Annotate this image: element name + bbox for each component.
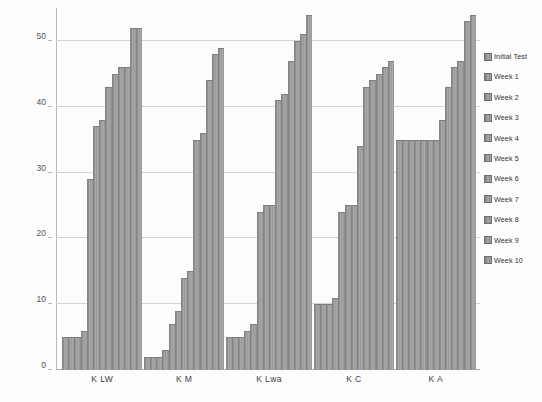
legend-label: Week 7 [494, 195, 519, 204]
legend-label: Week 5 [494, 154, 519, 163]
legend-swatch-icon [484, 216, 492, 224]
plot-area [56, 8, 480, 370]
y-tick-label-30: 30 [37, 163, 46, 173]
legend-item-week-4[interactable]: Week 4 [484, 134, 542, 143]
legend-swatch-icon [484, 73, 492, 81]
legend-item-week-9[interactable]: Week 9 [484, 236, 542, 245]
legend-item-week-8[interactable]: Week 8 [484, 215, 542, 224]
x-category-label-k-lwa: K Lwa [226, 374, 313, 392]
y-tick-mark-0 [48, 369, 52, 370]
legend-item-week-3[interactable]: Week 3 [484, 113, 542, 122]
x-category-label-k-m: K M [144, 374, 224, 392]
bar-k-lw-extra-2 [136, 28, 142, 370]
x-category-label-k-a: K A [396, 374, 476, 392]
legend-swatch-icon [484, 93, 492, 101]
legend-swatch-icon [484, 236, 492, 244]
legend-item-week-6[interactable]: Week 6 [484, 174, 542, 183]
legend-label: Week 9 [494, 236, 519, 245]
y-tick-label-10: 10 [37, 294, 46, 304]
legend-swatch-icon [484, 175, 492, 183]
legend-swatch-icon [484, 195, 492, 203]
y-tick-label-40: 40 [37, 97, 46, 107]
y-tick-mark-20 [48, 237, 52, 238]
y-tick-label-20: 20 [37, 228, 46, 238]
x-axis-category-labels: K LWK MK LwaK CK A [56, 374, 480, 392]
y-tick-mark-10 [48, 303, 52, 304]
bar-group-k-a [396, 8, 476, 370]
legend-item-week-1[interactable]: Week 1 [484, 72, 542, 81]
legend-label: Week 4 [494, 134, 519, 143]
legend-item-week-10[interactable]: Week 10 [484, 256, 542, 265]
bar-group-k-lw [62, 8, 142, 370]
bar-chart: 01020304050 K LWK MK LwaK CK A Initial T… [0, 0, 542, 402]
bar-k-lwa-extra-3 [306, 15, 312, 370]
bar-k-c-extra-2 [388, 61, 394, 370]
x-category-label-k-lw: K LW [62, 374, 142, 392]
legend-item-initial-test[interactable]: Initial Test [484, 52, 542, 61]
bar-group-k-m [144, 8, 224, 370]
legend-swatch-icon [484, 256, 492, 264]
x-category-label-k-c: K C [314, 374, 394, 392]
legend-label: Week 8 [494, 215, 519, 224]
legend-swatch-icon [484, 154, 492, 162]
y-axis: 01020304050 [0, 8, 52, 370]
legend-label: Week 1 [494, 72, 519, 81]
bar-k-a-extra-2 [470, 15, 476, 370]
y-tick-label-50: 50 [37, 31, 46, 41]
legend-label: Initial Test [494, 52, 527, 61]
y-tick-mark-50 [48, 40, 52, 41]
legend-label: Week 2 [494, 93, 519, 102]
legend-swatch-icon [484, 114, 492, 122]
y-tick-mark-30 [48, 172, 52, 173]
y-tick-label-0: 0 [41, 360, 46, 370]
chart-legend: Initial TestWeek 1Week 2Week 3Week 4Week… [484, 52, 542, 265]
bar-group-k-lwa [226, 8, 313, 370]
y-tick-mark-40 [48, 106, 52, 107]
legend-label: Week 3 [494, 113, 519, 122]
legend-item-week-5[interactable]: Week 5 [484, 154, 542, 163]
legend-swatch-icon [484, 134, 492, 142]
bar-groups [56, 8, 480, 370]
legend-item-week-7[interactable]: Week 7 [484, 195, 542, 204]
bar-k-m-extra-2 [218, 48, 224, 371]
legend-label: Week 10 [494, 256, 523, 265]
legend-label: Week 6 [494, 174, 519, 183]
bar-group-k-c [314, 8, 394, 370]
legend-item-week-2[interactable]: Week 2 [484, 93, 542, 102]
legend-swatch-icon [484, 53, 492, 61]
